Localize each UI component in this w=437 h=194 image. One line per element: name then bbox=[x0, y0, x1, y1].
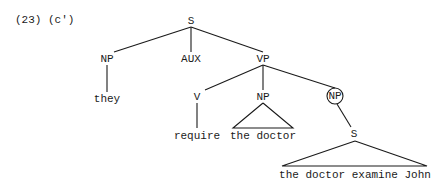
node-np-circled: NP bbox=[328, 90, 341, 102]
leaf-they: they bbox=[94, 93, 120, 105]
leaf-require: require bbox=[174, 130, 220, 142]
node-s-embedded: S bbox=[351, 128, 358, 140]
node-vp: VP bbox=[256, 53, 269, 65]
node-np-subject: NP bbox=[100, 53, 113, 65]
leaf-embedded-clause: the doctor examine John bbox=[279, 169, 431, 181]
node-aux: AUX bbox=[181, 53, 201, 65]
leaf-the-doctor: the doctor bbox=[230, 130, 296, 142]
node-np-object: NP bbox=[256, 91, 269, 103]
node-v: V bbox=[194, 91, 201, 103]
node-s-root: S bbox=[188, 15, 195, 27]
example-caption: (23) (c') bbox=[15, 14, 74, 26]
tree-edges bbox=[0, 0, 437, 194]
